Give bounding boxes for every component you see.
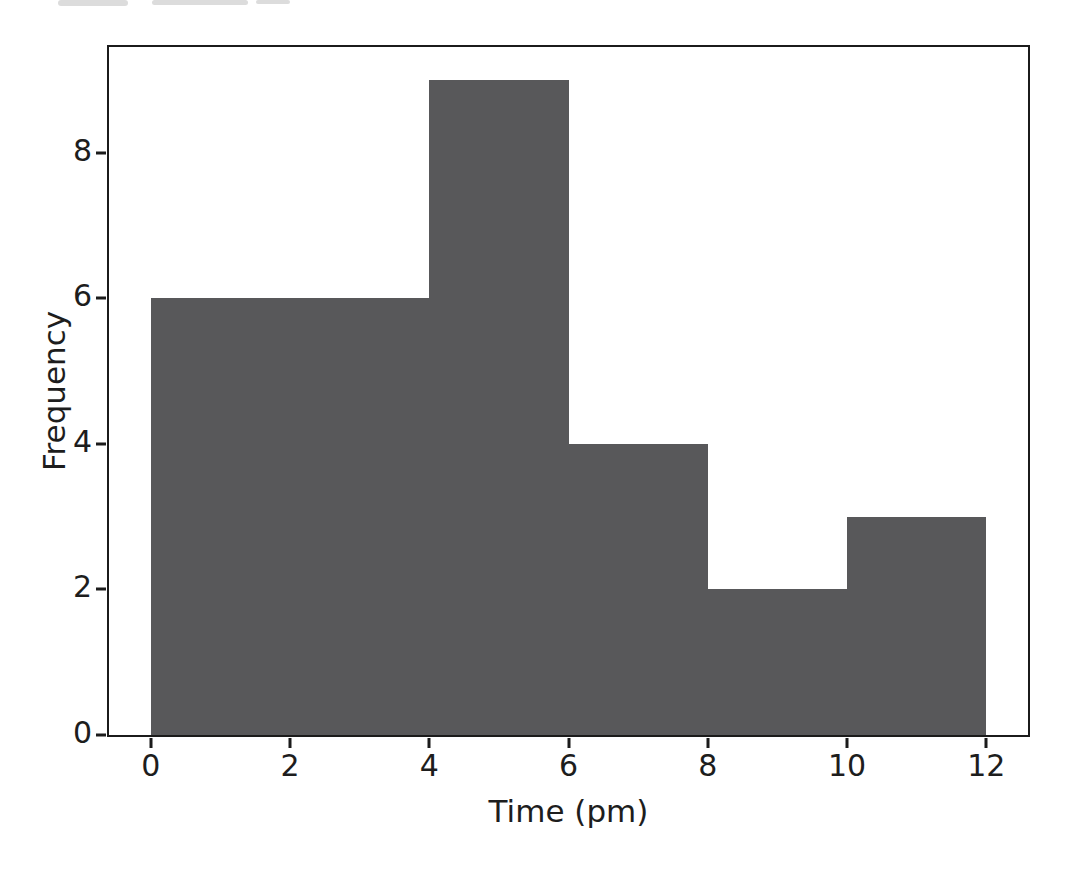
x-tick-label: 2 [280, 749, 299, 782]
y-tick-mark [96, 297, 106, 300]
x-tick-label: 0 [141, 749, 160, 782]
histogram-bar [290, 298, 430, 735]
histogram-bar [569, 444, 709, 735]
x-tick-label: 4 [420, 749, 439, 782]
y-tick-label: 2 [73, 572, 92, 602]
x-tick-label: 10 [828, 749, 866, 782]
histogram-figure: Frequency 02468101202468 Time (pm) [0, 0, 1074, 871]
y-tick-label: 0 [73, 718, 92, 748]
x-tick-mark [289, 738, 292, 748]
scan-artifact [58, 0, 128, 6]
y-tick-mark [96, 734, 106, 737]
histogram-bar [429, 80, 569, 735]
histogram-bar [708, 589, 848, 735]
y-tick-mark [96, 151, 106, 154]
y-tick-label: 6 [73, 281, 92, 311]
y-tick-mark [96, 588, 106, 591]
x-axis-title: Time (pm) [107, 793, 1030, 829]
scan-artifact [256, 0, 290, 4]
scan-artifact [152, 0, 248, 5]
plot-area: 02468101202468 [107, 45, 1030, 737]
histogram-bar [847, 517, 986, 735]
y-tick-label: 8 [73, 135, 92, 165]
y-tick-label: 4 [73, 426, 92, 456]
x-tick-label: 12 [967, 749, 1005, 782]
x-tick-mark [149, 738, 152, 748]
y-axis-title: Frequency [36, 311, 72, 471]
x-tick-mark [428, 738, 431, 748]
x-tick-mark [985, 738, 988, 748]
histogram-bar [151, 298, 291, 735]
x-tick-mark [706, 738, 709, 748]
x-tick-mark [567, 738, 570, 748]
y-tick-mark [96, 442, 106, 445]
x-tick-label: 8 [698, 749, 717, 782]
x-tick-mark [845, 738, 848, 748]
x-tick-label: 6 [559, 749, 578, 782]
